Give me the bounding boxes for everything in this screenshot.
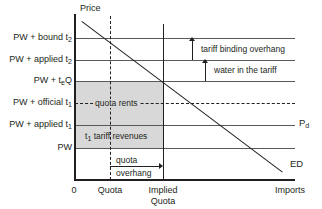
y-label-applied-t2-text: PW + applied t <box>9 54 68 64</box>
price-line-pw <box>75 148 295 149</box>
x-tick-implied-quota-line2: Quota <box>140 197 186 206</box>
quota-overhang-label-line1: quota <box>116 156 137 165</box>
y-label-te-q-suffix: Q <box>65 75 72 85</box>
y-label-official-t1-text: PW + official t <box>13 97 68 107</box>
quota-overhang-arrow-shaft <box>110 166 159 167</box>
y-axis <box>74 14 76 181</box>
y-label-official-t1: PW + official t1 <box>0 98 72 107</box>
y-label-applied-t2: PW + applied t2 <box>0 55 72 64</box>
y-label-applied-t1: PW + applied t1 <box>0 120 72 129</box>
ed-curve-label: ED <box>290 159 303 169</box>
water-in-the-tariff-arrow-shaft <box>205 60 206 81</box>
water-in-the-tariff-label: water in the tariff <box>214 66 277 75</box>
tariff-rate-quota-diagram: Price Imports PW + bound t2 PW + applied… <box>0 0 322 209</box>
y-label-te-q-sub: e <box>61 79 65 86</box>
y-axis-title: Price <box>80 4 101 13</box>
tariff-binding-overhang-label: tariff binding overhang <box>201 45 285 54</box>
implied-quota-vertical-line <box>163 24 164 180</box>
water-in-the-tariff-arrowhead <box>202 59 208 63</box>
x-axis <box>74 179 295 181</box>
tariff-revenues-label: t1 tariff revenues <box>85 132 147 141</box>
quota-overhang-label-line2: overhang <box>116 169 151 178</box>
y-label-applied-t1-sub: 1 <box>68 123 72 130</box>
y-label-te-q-text: PW + t <box>34 75 61 85</box>
y-label-applied-t1-text: PW + applied t <box>9 119 68 129</box>
tariff-revenues-sub: 1 <box>87 135 91 142</box>
y-label-te-q: PW + teQ <box>0 76 72 85</box>
price-line-applied-t2 <box>75 60 295 61</box>
tariff-binding-overhang-arrowhead <box>189 37 195 41</box>
x-tick-zero: 0 <box>66 186 82 195</box>
tariff-revenues-text: tariff revenues <box>94 131 148 141</box>
price-line-te-q <box>75 81 295 82</box>
price-line-applied-t1-pd <box>75 125 295 126</box>
pd-curve-label: Pd <box>299 118 309 128</box>
y-label-official-t1-sub: 1 <box>68 101 72 108</box>
y-label-bound-t2: PW + bound t2 <box>0 33 72 42</box>
x-axis-title: Imports <box>275 186 305 195</box>
y-label-pw: PW <box>0 143 72 152</box>
y-label-bound-t2-sub: 2 <box>68 36 72 43</box>
quota-overhang-arrowhead <box>159 163 163 169</box>
x-tick-quota: Quota <box>88 186 132 195</box>
y-label-bound-t2-text: PW + bound t <box>13 32 68 42</box>
tariff-binding-overhang-arrow-shaft <box>192 38 193 60</box>
quota-rents-label: quota rents <box>93 99 140 108</box>
x-tick-implied-quota-line1: Implied <box>140 186 186 195</box>
y-label-applied-t2-sub: 2 <box>68 58 72 65</box>
pd-curve-label-sub: d <box>305 122 309 129</box>
price-line-bound-t2 <box>75 38 295 39</box>
